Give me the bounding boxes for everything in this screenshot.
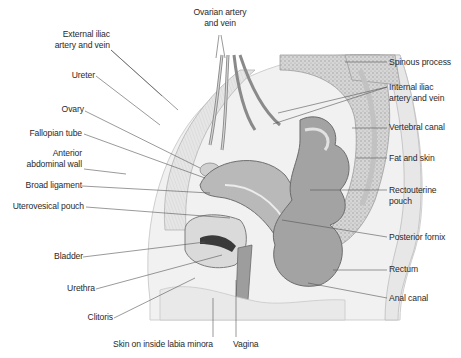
label-anal-canal: Anal canal — [389, 293, 428, 304]
label-ovary: Ovary — [62, 104, 84, 115]
label-external-iliac: External iliac artery and vein — [55, 29, 110, 50]
label-ureter: Ureter — [72, 70, 95, 81]
label-ovarian-artery: Ovarian artery and vein — [180, 7, 260, 28]
label-vagina: Vagina — [233, 339, 259, 350]
label-posterior-fornix: Posterior fornix — [389, 232, 445, 243]
label-uterovesical-pouch: Uterovesical pouch — [13, 201, 84, 212]
label-spinous-process: Spinous process — [389, 57, 451, 68]
label-urethra: Urethra — [67, 283, 95, 294]
label-fallopian-tube: Fallopian tube — [29, 128, 82, 139]
label-anterior-abdominal-wall: Anterior abdominal wall — [27, 148, 82, 169]
label-clitoris: Clitoris — [88, 312, 113, 323]
label-bladder: Bladder — [54, 251, 83, 262]
label-rectum: Rectum — [389, 264, 418, 275]
label-vertebral-canal: Vertebral canal — [389, 122, 445, 133]
label-rectouterine-pouch: Rectouterine pouch — [389, 185, 437, 206]
pelvis-illustration — [0, 0, 461, 358]
label-fat-and-skin: Fat and skin — [389, 153, 435, 164]
anatomy-diagram: External iliac artery and vein Ureter Ov… — [0, 0, 461, 358]
label-skin-labia-minora: Skin on inside labia minora — [113, 339, 213, 350]
label-broad-ligament: Broad ligament — [26, 180, 82, 191]
label-internal-iliac: Internal iliac artery and vein — [389, 82, 444, 103]
